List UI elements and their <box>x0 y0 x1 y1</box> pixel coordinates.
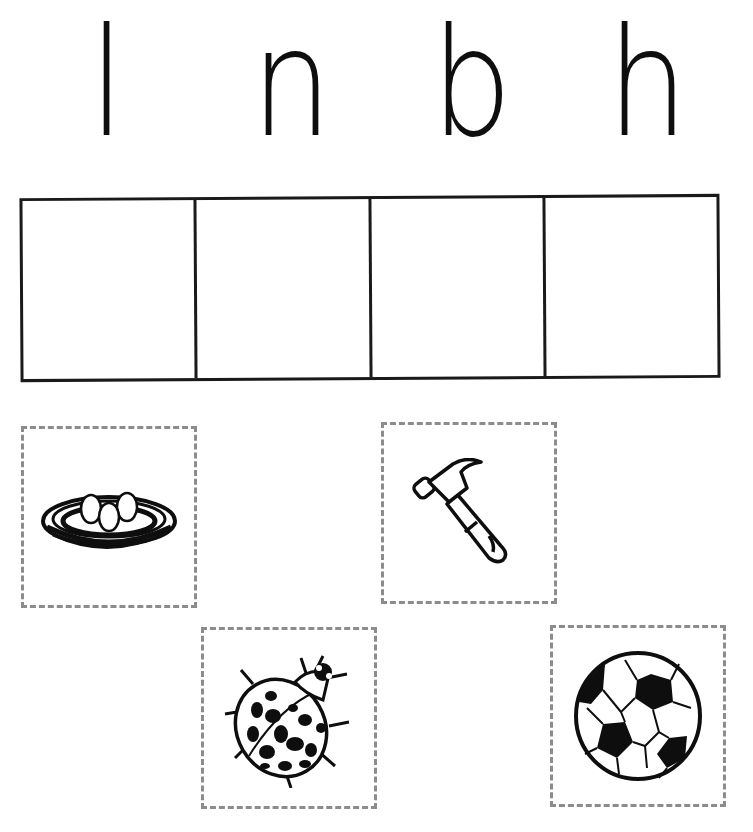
ladybug-icon <box>219 648 359 788</box>
card-soccer-ball[interactable] <box>550 625 726 807</box>
card-hammer[interactable] <box>381 422 557 604</box>
card-ladybug[interactable] <box>201 627 377 809</box>
answer-box-2[interactable] <box>197 199 372 378</box>
answer-grid <box>19 194 720 382</box>
letter-b: b <box>431 8 512 158</box>
letter-n: n <box>251 8 332 158</box>
answer-box-4[interactable] <box>545 197 717 376</box>
answer-box-1[interactable] <box>22 200 197 379</box>
letter-l: l <box>89 8 124 158</box>
hammer-icon <box>409 458 529 568</box>
answer-box-3[interactable] <box>371 198 546 377</box>
nest-with-eggs-icon <box>39 477 179 557</box>
card-nest[interactable] <box>21 426 197 608</box>
soccer-ball-icon <box>573 650 703 782</box>
letter-h: h <box>607 8 688 158</box>
